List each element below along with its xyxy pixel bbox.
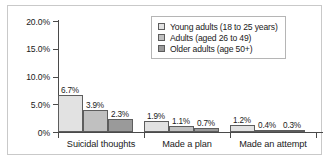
- bar-value-label: 6.7%: [61, 86, 79, 95]
- bar-value-label: 2.3%: [111, 110, 129, 119]
- legend-swatch-icon: [158, 23, 165, 30]
- x-axis-separator-tick: [58, 133, 59, 138]
- y-axis-tick-label: 20.0%: [26, 17, 50, 27]
- bar-value-label: 1.2%: [233, 116, 251, 125]
- bar-value-label: 1.9%: [147, 112, 165, 121]
- x-axis-line: [58, 132, 323, 133]
- bar[interactable]: 0.3%: [280, 130, 305, 132]
- x-axis-separator-tick: [230, 133, 231, 138]
- legend-label: Young adults (18 to 25 years): [170, 22, 278, 32]
- legend-label: Older adults (age 50+): [170, 44, 252, 54]
- bar[interactable]: 3.9%: [83, 110, 108, 132]
- chart-legend: Young adults (18 to 25 years) Adults (ag…: [151, 16, 286, 59]
- chart-figure: 20.0%15.0%10.0%5.0%0% 6.7%3.9%2.3%1.9%1.…: [7, 5, 322, 155]
- y-axis-tick-label: 10.0%: [26, 72, 50, 82]
- bar-value-label: 0.7%: [197, 119, 215, 128]
- x-axis-category-label: Made an attempt: [230, 139, 316, 149]
- bar[interactable]: 6.7%: [58, 95, 83, 132]
- legend-swatch-icon: [158, 34, 165, 41]
- legend-item[interactable]: Young adults (18 to 25 years): [158, 21, 278, 32]
- x-axis-category-label: Made a plan: [144, 139, 230, 149]
- bar[interactable]: 0.7%: [194, 128, 219, 132]
- y-axis-tick-label: 15.0%: [26, 44, 50, 54]
- y-axis-tick-label: 5.0%: [31, 100, 50, 110]
- legend-label: Adults (aged 26 to 49): [170, 33, 251, 43]
- legend-item[interactable]: Adults (aged 26 to 49): [158, 32, 278, 43]
- bar[interactable]: 0.4%: [255, 130, 280, 132]
- bar-value-label: 1.1%: [172, 117, 190, 126]
- bar[interactable]: 1.9%: [144, 121, 169, 132]
- x-axis-separator-tick: [144, 133, 145, 138]
- bar-value-label: 0.4%: [258, 121, 276, 130]
- bar[interactable]: 1.1%: [169, 126, 194, 132]
- legend-item[interactable]: Older adults (age 50+): [158, 43, 278, 54]
- bar-value-label: 0.3%: [283, 121, 301, 130]
- y-axis-tick-label: 0%: [38, 128, 50, 138]
- bar-group: 6.7%3.9%2.3%: [58, 21, 144, 132]
- legend-swatch-icon: [158, 45, 165, 52]
- bar[interactable]: 1.2%: [230, 125, 255, 132]
- x-axis-category-label: Suicidal thoughts: [58, 139, 144, 149]
- x-axis-separator-tick: [316, 133, 317, 138]
- bar-value-label: 3.9%: [86, 101, 104, 110]
- bar[interactable]: 2.3%: [108, 119, 133, 132]
